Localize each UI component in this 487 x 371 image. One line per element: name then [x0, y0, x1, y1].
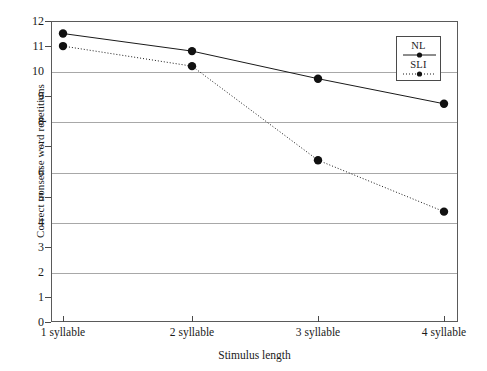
chart-container: Correct nonsense word repetitions 012345… [0, 0, 487, 371]
legend-sample-nl-solid-line-icon [397, 51, 440, 59]
x-axis-tick-label: 1 syllable [3, 326, 123, 338]
x-axis-tick [63, 316, 64, 322]
y-axis-tick-label: 6 [18, 166, 44, 178]
y-axis-tick-label: 2 [18, 266, 44, 278]
legend-entry-sli: SLI [397, 59, 440, 78]
y-axis-tick-label: 4 [18, 216, 44, 228]
y-axis-tick [45, 247, 51, 248]
legend-entry-nl: NL [397, 40, 440, 59]
x-axis-tick [192, 316, 193, 322]
y-axis-tick-label: 3 [18, 241, 44, 253]
y-axis-tick-label: 5 [18, 191, 44, 203]
x-axis-tick-label: 4 syllable [384, 326, 487, 338]
legend-sample-sli-dotted-line-icon [397, 70, 440, 78]
y-axis-tick-label: 11 [18, 40, 44, 52]
gridline [52, 273, 457, 274]
x-axis-tick [444, 316, 445, 322]
legend-label-sli: SLI [397, 59, 440, 70]
y-axis-tick-label: 12 [18, 15, 44, 27]
y-axis-tick-label: 10 [18, 65, 44, 77]
y-axis-tick-label: 8 [18, 115, 44, 127]
y-axis-tick [45, 297, 51, 298]
y-axis-tick [45, 197, 51, 198]
x-axis-title: Stimulus length [51, 349, 458, 361]
x-axis-tick-label: 3 syllable [258, 326, 378, 338]
legend-label-nl: NL [397, 40, 440, 51]
y-axis-tick [45, 322, 51, 323]
y-axis-tick-label: 1 [18, 291, 44, 303]
y-axis-tick-label: 9 [18, 90, 44, 102]
y-axis-tick [45, 146, 51, 147]
gridline [52, 223, 457, 224]
y-axis-tick [45, 21, 51, 22]
x-axis-tick [318, 316, 319, 322]
legend: NL SLI [396, 36, 441, 81]
gridline [52, 122, 457, 123]
x-axis-tick-label: 2 syllable [132, 326, 252, 338]
y-axis-tick [45, 46, 51, 47]
y-axis-tick-label: 7 [18, 140, 44, 152]
gridline [52, 173, 457, 174]
y-axis-tick [45, 96, 51, 97]
